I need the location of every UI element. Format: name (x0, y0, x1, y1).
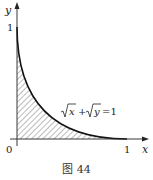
equation-y: y (93, 106, 100, 117)
x-tick-label: 1 (124, 144, 130, 155)
origin-label: 0 (6, 144, 12, 155)
x-axis-arrow-icon (142, 137, 149, 142)
x-axis-label: x (142, 143, 149, 156)
curve-equation-label: x + y =1 (61, 104, 117, 117)
equation-x: x (69, 106, 75, 117)
equation-plus: + (78, 106, 86, 117)
y-tick-label: 1 (7, 22, 13, 33)
equation-equals: =1 (102, 106, 117, 117)
figure-caption: 图 44 (0, 160, 153, 176)
y-axis-label: y (4, 4, 12, 17)
shaded-region (17, 27, 127, 139)
figure-diagram: y x 0 1 1 x + y =1 (0, 0, 153, 180)
y-axis-arrow-icon (15, 2, 20, 9)
